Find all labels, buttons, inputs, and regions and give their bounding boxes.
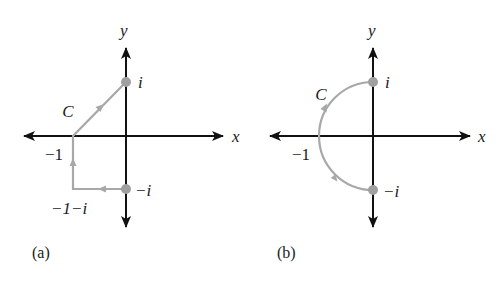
x-axis-label: x [231, 127, 240, 146]
panel-a: x y C i −i −1 −1−i (a) [24, 21, 240, 262]
direction-arrow-bottom [98, 186, 106, 193]
y-axis-label: y [118, 21, 128, 40]
y-axis-label: y [366, 21, 376, 40]
caption-b: (b) [277, 244, 296, 262]
x-axis-label: x [477, 127, 486, 146]
contour-label-c: C [315, 85, 327, 104]
label-i: i [138, 73, 143, 92]
direction-arrow-left [70, 158, 77, 166]
label-minus-one: −1 [292, 145, 310, 164]
figure-canvas: x y C i −i −1 −1−i (a) x y C i −i −1 [0, 0, 503, 281]
point-i [368, 77, 378, 87]
point-minus-i [121, 184, 131, 194]
point-i [121, 77, 131, 87]
label-minus-one: −1 [45, 145, 63, 164]
label-minus-one-minus-i: −1−i [51, 199, 87, 218]
caption-a: (a) [32, 244, 50, 262]
contour-label-c: C [62, 102, 74, 121]
point-minus-i [368, 185, 378, 195]
label-minus-i: −i [383, 182, 399, 201]
label-i: i [385, 73, 390, 92]
label-minus-i: −i [135, 181, 151, 200]
panel-b: x y C i −i −1 (b) [270, 21, 486, 262]
